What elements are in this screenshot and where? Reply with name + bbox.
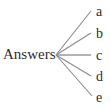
branch-line-a bbox=[56, 11, 91, 55]
leaf-label-c: c bbox=[96, 48, 110, 64]
root-node-label: Answers bbox=[3, 44, 53, 64]
branch-line-b bbox=[56, 33, 91, 55]
leaf-label-a: a bbox=[96, 4, 110, 20]
leaf-label-e: e bbox=[96, 90, 110, 105]
leaf-label-b: b bbox=[96, 26, 110, 42]
diagram-canvas: Answers a b c d e bbox=[0, 0, 111, 105]
leaf-label-d: d bbox=[96, 69, 110, 85]
branch-line-e bbox=[56, 55, 92, 96]
branch-line-d bbox=[56, 55, 91, 76]
